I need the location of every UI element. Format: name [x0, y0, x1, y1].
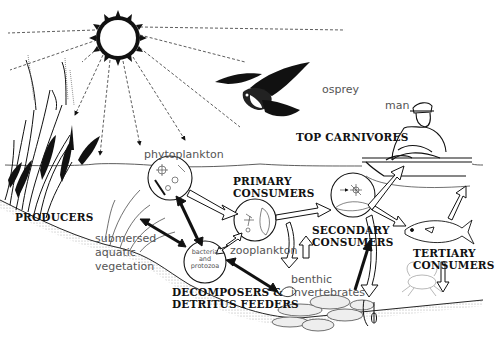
producers-heading: PRODUCERS: [15, 211, 94, 223]
fish-icon: [405, 220, 474, 244]
submersed-vegetation-label: submersed aquatic vegetation: [95, 232, 156, 273]
bacteria-protozoa-label: bacteria and protozoa: [188, 249, 222, 270]
decomposers-line1: DECOMPOSERS &: [172, 286, 299, 298]
secondary-consumers-line2: CONSUMERS: [312, 236, 394, 248]
man-label: man: [385, 100, 409, 113]
primary-consumers-heading: PRIMARY CONSUMERS: [233, 175, 315, 199]
marsh-grass-icon: [5, 60, 72, 218]
sun-icon: [89, 10, 147, 66]
secondary-consumers-circle: [331, 173, 375, 217]
benthic-line2: invertebrates: [291, 287, 365, 300]
decomposers-line2: DETRITUS FEEDERS: [172, 298, 299, 310]
bacteria-line3: protozoa: [188, 263, 222, 270]
secondary-consumers-heading: SECONDARY CONSUMERS: [312, 224, 394, 248]
osprey-label: osprey: [322, 84, 359, 97]
water-surface: [5, 164, 483, 167]
benthic-invertebrates-label: benthic invertebrates: [291, 274, 365, 299]
decomposers-heading: DECOMPOSERS & DETRITUS FEEDERS: [172, 286, 299, 310]
phytoplankton-circle: [148, 156, 192, 200]
zooplankton-label: zooplankton: [230, 245, 297, 258]
primary-consumers-line2: CONSUMERS: [233, 187, 315, 199]
tertiary-consumers-line1: TERTIARY: [413, 247, 495, 259]
osprey-icon: [215, 62, 310, 116]
tertiary-consumers-line2: CONSUMERS: [413, 259, 495, 271]
boat-icon: [362, 158, 472, 176]
tertiary-consumers-heading: TERTIARY CONSUMERS: [413, 247, 495, 271]
submersed-line1: submersed: [95, 232, 156, 246]
top-carnivores-heading: TOP CARNIVORES: [296, 131, 408, 143]
primary-consumers-line1: PRIMARY: [233, 175, 315, 187]
submersed-line3: vegetation: [95, 260, 156, 274]
phytoplankton-label: phytoplankton: [144, 149, 224, 162]
submersed-line2: aquatic: [95, 246, 156, 260]
benthic-line1: benthic: [291, 274, 365, 287]
secondary-consumers-line1: SECONDARY: [312, 224, 394, 236]
sunlight-rays: [8, 27, 345, 155]
